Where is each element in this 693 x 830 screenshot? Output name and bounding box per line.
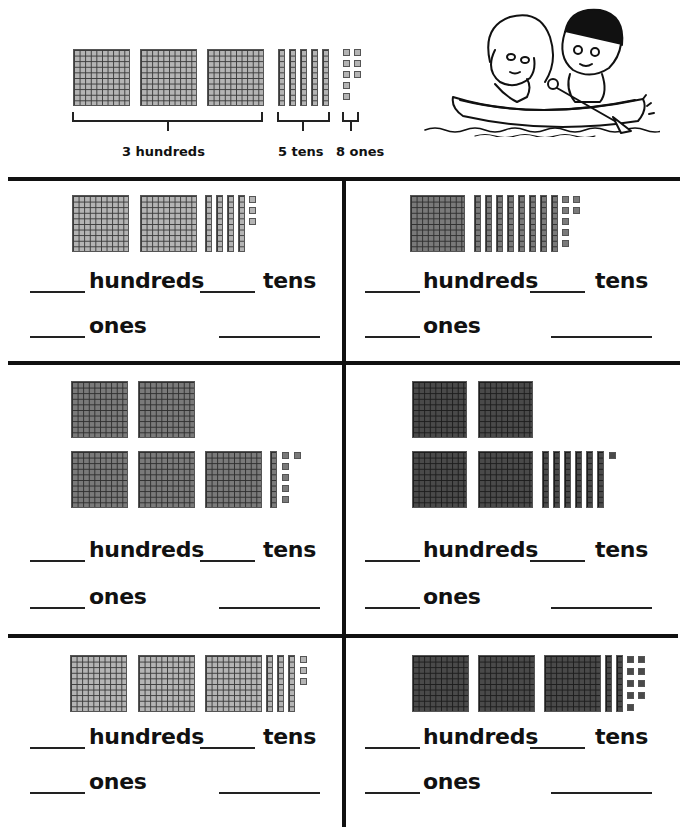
hundreds-answer-blank[interactable] <box>365 560 420 562</box>
hundred-flat <box>72 195 129 252</box>
hundred-flat <box>412 655 469 712</box>
ten-rod <box>507 195 514 252</box>
one-unit <box>627 692 634 699</box>
one-unit <box>562 207 569 214</box>
one-unit <box>609 452 616 459</box>
hundreds-answer-blank[interactable] <box>365 291 420 293</box>
hundreds-bracket <box>72 112 263 122</box>
hundreds-label: hundreds <box>89 724 204 749</box>
one-unit <box>300 667 307 674</box>
ten-rod <box>575 451 582 508</box>
hundred-flat <box>138 655 195 712</box>
one-unit <box>282 452 289 459</box>
ten-rod <box>288 655 295 712</box>
ten-rod <box>540 195 547 252</box>
one-unit <box>354 60 361 67</box>
hundreds-answer-blank[interactable] <box>30 560 85 562</box>
one-unit <box>354 49 361 56</box>
number-answer-blank[interactable] <box>219 792 320 794</box>
ten-rod <box>322 49 329 106</box>
ones-answer-blank[interactable] <box>365 792 420 794</box>
one-unit <box>282 474 289 481</box>
one-unit <box>638 692 645 699</box>
hundred-flat <box>410 195 465 252</box>
number-answer-blank[interactable] <box>551 792 652 794</box>
ones-label: ones <box>89 769 147 794</box>
tens-answer-blank[interactable] <box>530 291 585 293</box>
ones-label: ones <box>423 313 481 338</box>
tens-answer-blank[interactable] <box>200 747 255 749</box>
ten-rod <box>616 655 623 712</box>
ten-rod <box>605 655 612 712</box>
one-unit <box>638 680 645 687</box>
ten-rod <box>227 195 234 252</box>
number-answer-blank[interactable] <box>219 607 320 609</box>
tens-bracket <box>277 112 330 122</box>
ones-answer-blank[interactable] <box>30 792 85 794</box>
hundred-flat <box>412 451 467 508</box>
number-answer-blank[interactable] <box>551 607 652 609</box>
ones-answer-blank[interactable] <box>30 607 85 609</box>
one-unit <box>627 668 634 675</box>
one-unit <box>638 656 645 663</box>
ten-rod <box>238 195 245 252</box>
one-unit <box>573 207 580 214</box>
tens-label: tens <box>595 724 648 749</box>
tens-label: tens <box>263 537 316 562</box>
ten-rod <box>216 195 223 252</box>
ones-label: ones <box>89 584 147 609</box>
canoe-kids-illustration <box>415 2 660 137</box>
one-unit <box>294 452 301 459</box>
ones-answer-blank[interactable] <box>365 336 420 338</box>
tens-answer-blank[interactable] <box>530 560 585 562</box>
one-unit <box>343 82 350 89</box>
ten-rod <box>205 195 212 252</box>
tens-answer-blank[interactable] <box>200 291 255 293</box>
example-tens-label: 5 tens <box>278 144 324 159</box>
ones-answer-blank[interactable] <box>30 336 85 338</box>
one-unit <box>573 196 580 203</box>
hundreds-answer-blank[interactable] <box>365 747 420 749</box>
one-unit <box>282 496 289 503</box>
ten-rod <box>597 451 604 508</box>
number-answer-blank[interactable] <box>551 336 652 338</box>
one-unit <box>282 463 289 470</box>
hundreds-label: hundreds <box>423 724 538 749</box>
hundred-flat <box>71 381 128 438</box>
tens-label: tens <box>263 724 316 749</box>
tens-answer-blank[interactable] <box>530 747 585 749</box>
one-unit <box>282 485 289 492</box>
ten-rod <box>311 49 318 106</box>
ten-rod <box>529 195 536 252</box>
ten-rod <box>277 655 284 712</box>
hundred-flat <box>478 381 533 438</box>
hundreds-label: hundreds <box>89 537 204 562</box>
ten-rod <box>553 451 560 508</box>
one-unit <box>249 196 256 203</box>
ones-answer-blank[interactable] <box>365 607 420 609</box>
hundreds-answer-blank[interactable] <box>30 747 85 749</box>
ones-label: ones <box>423 769 481 794</box>
tens-label: tens <box>263 268 316 293</box>
one-unit <box>300 678 307 685</box>
bracket-tick <box>167 122 169 131</box>
hundred-flat <box>478 451 533 508</box>
tens-label: tens <box>595 268 648 293</box>
one-unit <box>343 71 350 78</box>
hundred-flat <box>140 49 197 106</box>
tens-answer-blank[interactable] <box>200 560 255 562</box>
one-unit <box>300 656 307 663</box>
hundred-flat <box>205 451 262 508</box>
ten-rod <box>586 451 593 508</box>
ones-label: ones <box>89 313 147 338</box>
ten-rod <box>551 195 558 252</box>
example-hundreds-label: 3 hundreds <box>122 144 205 159</box>
ten-rod <box>564 451 571 508</box>
one-unit <box>562 229 569 236</box>
ten-rod <box>278 49 285 106</box>
number-answer-blank[interactable] <box>219 336 320 338</box>
hundreds-answer-blank[interactable] <box>30 291 85 293</box>
ten-rod <box>300 49 307 106</box>
hundred-flat <box>70 655 127 712</box>
ten-rod <box>485 195 492 252</box>
